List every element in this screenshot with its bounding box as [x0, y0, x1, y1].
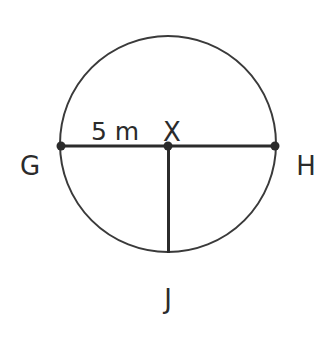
point-marker-h — [271, 142, 280, 151]
diagram-canvas: G H X J 5 m — [0, 0, 332, 337]
label-h: H — [296, 151, 316, 181]
label-g: G — [20, 151, 40, 181]
label-measure-5m: 5 m — [91, 117, 139, 146]
point-marker-g — [57, 142, 66, 151]
label-j: J — [162, 284, 172, 314]
label-x: X — [163, 117, 181, 147]
circle-diagram: G H X J 5 m — [0, 0, 332, 337]
